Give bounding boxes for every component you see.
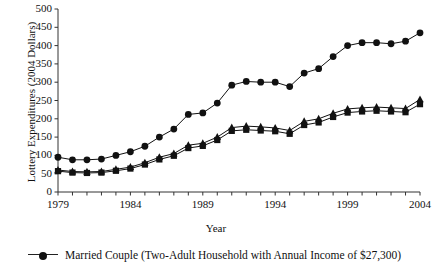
data-point-circle: [257, 79, 264, 86]
data-point-square: [229, 128, 235, 134]
x-tick-label: 1994: [255, 198, 295, 210]
data-point-square: [200, 143, 206, 149]
data-point-circle: [417, 29, 424, 36]
data-point-square: [373, 108, 379, 114]
data-point-square: [359, 108, 365, 114]
series-circle: [55, 29, 424, 163]
data-point-square: [142, 161, 148, 167]
data-point-square: [388, 108, 394, 114]
data-point-square: [345, 109, 351, 115]
legend-circle-marker-icon: [28, 249, 58, 261]
data-point-square: [214, 137, 220, 143]
data-point-circle: [243, 78, 250, 85]
data-point-square: [171, 153, 177, 159]
data-point-circle: [185, 111, 192, 118]
data-point-square: [301, 122, 307, 128]
data-point-square: [55, 168, 61, 174]
chart-figure: Lottery Expenditures (2004 Dollars) 0501…: [0, 0, 432, 267]
data-point-square: [127, 165, 133, 171]
data-point-square: [185, 145, 191, 151]
data-point-circle: [315, 65, 322, 72]
x-tick-label: 1989: [183, 198, 223, 210]
x-tick-label: 1979: [38, 198, 78, 210]
data-point-circle: [272, 79, 279, 86]
chart-legend: Married Couple (Two-Adult Household with…: [0, 244, 432, 266]
series-line: [58, 33, 420, 160]
data-point-square: [287, 131, 293, 137]
data-point-circle: [170, 126, 177, 133]
x-tick-label: 1984: [110, 198, 150, 210]
data-point-square: [316, 119, 322, 125]
data-point-square: [258, 127, 264, 133]
data-point-circle: [301, 70, 308, 77]
series-line: [58, 104, 420, 173]
data-point-square: [69, 170, 75, 176]
legend-label: Married Couple (Two-Adult Household with…: [65, 249, 401, 261]
data-point-circle: [330, 53, 337, 60]
x-axis-title: Year: [0, 222, 432, 234]
plot-area: [0, 0, 432, 215]
data-point-circle: [156, 134, 163, 141]
data-point-circle: [388, 40, 395, 47]
series-square: [55, 101, 423, 176]
data-point-circle: [127, 148, 134, 155]
data-point-square: [243, 127, 249, 133]
data-point-circle: [113, 152, 120, 159]
series-line: [58, 99, 420, 171]
data-point-circle: [199, 110, 206, 117]
x-tick-label: 2004: [400, 198, 432, 210]
data-point-circle: [141, 143, 148, 150]
x-tick-label: 1999: [328, 198, 368, 210]
legend-item: Married Couple (Two-Adult Household with…: [28, 249, 401, 261]
data-point-circle: [402, 38, 409, 45]
data-point-circle: [55, 154, 62, 161]
data-point-circle: [344, 42, 351, 49]
series-triangle: [54, 95, 423, 174]
data-point-square: [113, 168, 119, 174]
data-point-square: [330, 114, 336, 120]
data-point-circle: [69, 156, 76, 163]
data-point-square: [272, 128, 278, 134]
data-point-circle: [373, 39, 380, 46]
data-point-circle: [84, 156, 91, 163]
data-point-square: [98, 170, 104, 176]
data-point-square: [402, 109, 408, 115]
data-point-circle: [286, 83, 293, 90]
data-point-circle: [228, 82, 235, 89]
data-point-square: [156, 156, 162, 162]
data-point-circle: [214, 100, 221, 107]
data-point-circle: [359, 39, 366, 46]
data-point-square: [417, 101, 423, 107]
data-point-square: [84, 170, 90, 176]
data-point-circle: [98, 156, 105, 163]
